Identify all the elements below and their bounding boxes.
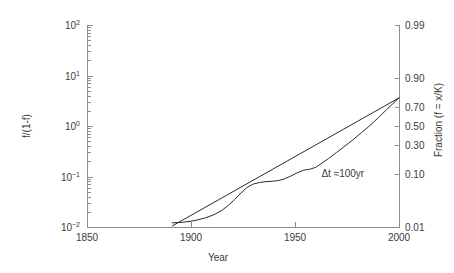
y-axis-right-title: Fraction (f = x/K): [433, 83, 444, 157]
y-tick-left: [88, 76, 93, 77]
y-minor-tick-left: [88, 102, 91, 103]
y-minor-tick-left: [88, 188, 91, 189]
y-minor-tick-left: [88, 60, 91, 61]
y-tick-right: [395, 78, 400, 79]
y-minor-tick-left: [88, 45, 91, 46]
y-minor-tick-left: [88, 137, 91, 138]
y-tick-right: [395, 145, 400, 146]
y-minor-tick-left: [88, 179, 91, 180]
figure: 10−210−1100101102 0.010.100.300.500.700.…: [0, 0, 454, 273]
y-minor-tick-left: [88, 78, 91, 79]
y-minor-tick-left: [88, 192, 91, 193]
y-tick-left: [88, 227, 93, 228]
y-tick-right: [395, 25, 400, 26]
x-label: 1850: [76, 232, 98, 243]
y-minor-tick-left: [88, 40, 91, 41]
y-minor-tick-left: [88, 96, 91, 97]
x-tick: [191, 222, 192, 227]
x-axis-title: Year: [208, 252, 228, 263]
y-minor-tick-left: [88, 87, 91, 88]
plot-area: [87, 25, 400, 228]
y-tick-left: [88, 177, 93, 178]
data-curves: [87, 25, 400, 228]
y-tick-right: [395, 126, 400, 127]
y-minor-tick-left: [88, 36, 91, 37]
y-minor-tick-left: [88, 161, 91, 162]
x-tick: [87, 222, 88, 227]
y-minor-tick-left: [88, 181, 91, 182]
y-minor-tick-left: [88, 30, 91, 31]
y-minor-tick-left: [88, 83, 91, 84]
x-label: 1900: [180, 232, 202, 243]
y-minor-tick-left: [88, 146, 91, 147]
y-minor-tick-left: [88, 91, 91, 92]
y-label-left: 10−1: [32, 170, 80, 182]
y-minor-tick-left: [88, 51, 91, 52]
y-minor-tick-left: [88, 184, 91, 185]
y-minor-tick-left: [88, 33, 91, 34]
y-label-right: 0.30: [405, 139, 424, 150]
y-minor-tick-left: [88, 27, 91, 28]
x-label: 2000: [388, 232, 410, 243]
y-tick-left: [88, 25, 93, 26]
y-minor-tick-left: [88, 80, 91, 81]
y-label-right: 0.01: [405, 221, 424, 232]
y-minor-tick-left: [88, 134, 91, 135]
y-label-left: 100: [32, 120, 80, 132]
y-minor-tick-left: [88, 128, 91, 129]
y-label-right: 0.50: [405, 121, 424, 132]
y-label-right: 0.10: [405, 169, 424, 180]
y-label-left: 10−2: [32, 221, 80, 233]
y-minor-tick-left: [88, 111, 91, 112]
series-logistic-fit-line: [172, 98, 399, 226]
x-tick: [295, 222, 296, 227]
y-tick-left: [88, 126, 93, 127]
y-minor-tick-left: [88, 197, 91, 198]
y-tick-right: [395, 107, 400, 108]
y-minor-tick-left: [88, 152, 91, 153]
y-axis-left-title: f/(1-f): [21, 114, 32, 138]
y-label-right: 0.90: [405, 72, 424, 83]
y-label-right: 0.99: [405, 20, 424, 31]
y-minor-tick-left: [88, 212, 91, 213]
y-minor-tick-left: [88, 203, 91, 204]
x-tick: [399, 222, 400, 227]
y-label-left: 102: [32, 19, 80, 31]
x-label: 1950: [284, 232, 306, 243]
y-label-left: 101: [32, 69, 80, 81]
y-minor-tick-left: [88, 131, 91, 132]
annotation-delta-t: Δt ≈100yr: [321, 168, 364, 179]
y-minor-tick-left: [88, 141, 91, 142]
y-tick-right: [395, 174, 400, 175]
y-label-right: 0.70: [405, 102, 424, 113]
